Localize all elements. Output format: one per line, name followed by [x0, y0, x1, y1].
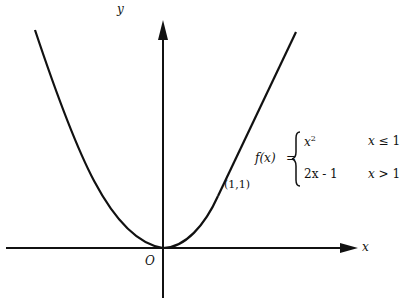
case-1-var: x	[304, 135, 311, 149]
case-2-expr: 2x - 1	[304, 167, 338, 181]
function-name: f(x)	[255, 151, 276, 165]
parabola-branch	[35, 30, 163, 248]
case-2-cond-var: x	[368, 167, 375, 181]
origin-label: O	[145, 254, 155, 268]
parabola-right	[163, 196, 218, 248]
equals-sign: =	[286, 151, 296, 165]
case-2-cond-op: >	[379, 167, 389, 181]
x-axis-arrow-icon	[340, 243, 358, 253]
linear-branch	[218, 32, 296, 196]
case-2-condition: x > 1	[368, 167, 400, 181]
point-label: (1,1)	[224, 178, 250, 191]
case-1-condition: x ≤ 1	[368, 134, 400, 148]
case-1-expr: x2	[304, 134, 316, 149]
y-axis-label: y	[117, 2, 124, 16]
case-1-cond-val: 1	[393, 134, 401, 148]
case-1-cond-var: x	[368, 134, 375, 148]
x-axis-label: x	[362, 240, 369, 254]
case-1-cond-op: ≤	[379, 134, 389, 148]
case-1-exponent: 2	[311, 134, 316, 143]
case-2-cond-val: 1	[393, 167, 401, 181]
graph	[0, 0, 405, 303]
y-axis-arrow-icon	[158, 20, 168, 40]
